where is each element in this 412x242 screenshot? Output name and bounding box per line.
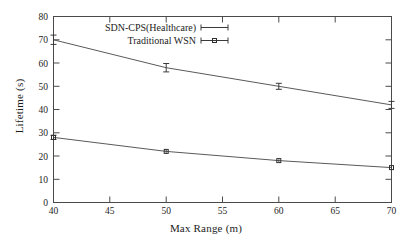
x-tick-label: 65: [330, 206, 340, 216]
y-tick-label: 10: [39, 175, 49, 185]
chart-figure: 0 10 20 30 40: [0, 0, 412, 242]
figure-background: [0, 0, 412, 242]
y-tick-label: 50: [39, 82, 49, 92]
x-tick-label: 60: [274, 206, 284, 216]
legend-label-traditional-wsn: Traditional WSN: [127, 35, 196, 46]
x-axis-title: Max Range (m): [0, 222, 412, 234]
legend-label-sdn-cps: SDN-CPS(Healthcare): [105, 22, 196, 34]
y-tick-label: 40: [39, 105, 49, 115]
x-tick-label: 50: [161, 206, 171, 216]
y-tick-label: 30: [39, 128, 49, 138]
x-tick-label: 45: [105, 206, 115, 216]
y-tick-label: 70: [39, 35, 49, 45]
x-tick-label: 70: [387, 206, 397, 216]
y-tick-label: 60: [39, 59, 49, 69]
x-tick-label: 55: [218, 206, 228, 216]
y-tick-label: 20: [39, 152, 49, 162]
y-tick-label: 80: [39, 12, 49, 22]
data-point-errorbar: [51, 135, 57, 139]
y-tick-label: 0: [43, 198, 48, 208]
plot-canvas: 0 10 20 30 40: [0, 0, 412, 242]
y-axis-title: Lifetime (s): [13, 51, 25, 161]
x-tick-label: 40: [49, 206, 59, 216]
